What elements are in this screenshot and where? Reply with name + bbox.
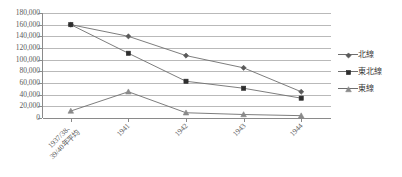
data-point-marker — [242, 86, 246, 90]
y-axis-tick-mark — [38, 95, 42, 96]
x-axis-tick-mark — [128, 118, 129, 122]
x-axis-tick-mark — [71, 118, 72, 122]
y-axis-tick-label: 0 — [0, 114, 40, 122]
data-point-marker — [126, 51, 130, 55]
legend-swatch-diamond-icon — [338, 50, 358, 60]
legend-item-北線[interactable]: 北線 — [338, 46, 400, 63]
y-axis-tick-mark — [38, 36, 42, 37]
y-axis-tick-mark — [38, 60, 42, 61]
x-axis-tick-label-line: 1941 — [116, 122, 133, 139]
x-axis-tick-label-line: 1942 — [173, 122, 190, 139]
y-axis-tick-label: 20,000 — [0, 102, 40, 110]
x-axis-tick-label: 1943 — [231, 122, 248, 139]
series-東線 — [68, 89, 304, 118]
x-axis-tick-label: 1941 — [116, 122, 133, 139]
legend-label: 東北線 — [358, 67, 382, 77]
chart-legend: 北線東北線東線 — [338, 46, 400, 97]
y-axis-tick-label: 60,000 — [0, 79, 40, 87]
data-point-marker — [126, 34, 131, 39]
legend-swatch-triangle-icon — [338, 84, 358, 94]
data-point-marker — [184, 79, 188, 83]
y-axis-tick-label: 140,000 — [0, 32, 40, 40]
legend-item-東北線[interactable]: 東北線 — [338, 63, 400, 80]
y-axis-tick-label: 160,000 — [0, 21, 40, 29]
series-東北線 — [69, 23, 304, 101]
x-axis-tick-label: 1942 — [173, 122, 190, 139]
data-point-marker — [299, 89, 304, 94]
data-point-marker — [299, 96, 303, 100]
y-axis-tick-mark — [38, 48, 42, 49]
data-point-marker — [126, 89, 132, 94]
y-axis-tick-mark — [38, 13, 42, 14]
legend-label: 北線 — [358, 50, 374, 60]
y-axis-tick-mark — [38, 118, 42, 119]
chart-title — [0, 0, 402, 5]
gridline — [43, 118, 331, 119]
x-axis-tick-label-line: 1943 — [231, 122, 248, 139]
legend-label: 東線 — [358, 84, 374, 94]
data-point-marker — [241, 65, 246, 70]
series-layer — [42, 13, 330, 118]
y-axis-tick-mark — [38, 25, 42, 26]
y-axis-tick-mark — [38, 83, 42, 84]
data-point-marker — [69, 23, 73, 27]
x-axis-tick-label: 1937/38、39/40年平均 — [42, 122, 81, 161]
x-axis-tick-mark — [186, 118, 187, 122]
y-axis-tick-label: 40,000 — [0, 91, 40, 99]
data-point-marker — [183, 53, 188, 58]
legend-item-東線[interactable]: 東線 — [338, 80, 400, 97]
x-axis-tick-mark — [244, 118, 245, 122]
legend-swatch-square-icon — [338, 67, 358, 77]
x-axis-tick-label: 1944 — [289, 122, 306, 139]
series-line — [71, 25, 301, 99]
y-axis-tick-mark — [38, 71, 42, 72]
line-chart: 北線東北線東線 180,000160,000140,000120,000100,… — [0, 0, 402, 177]
y-axis-tick-label: 120,000 — [0, 44, 40, 52]
diamond-marker-icon — [345, 52, 352, 59]
y-axis-tick-label: 180,000 — [0, 9, 40, 17]
y-axis-tick-mark — [38, 106, 42, 107]
x-axis-tick-label-line: 1944 — [289, 122, 306, 139]
triangle-marker-icon — [345, 86, 352, 93]
y-axis-tick-label: 100,000 — [0, 56, 40, 64]
y-axis-tick-label: 80,000 — [0, 67, 40, 75]
x-axis-tick-mark — [301, 118, 302, 122]
square-marker-icon — [345, 69, 352, 76]
